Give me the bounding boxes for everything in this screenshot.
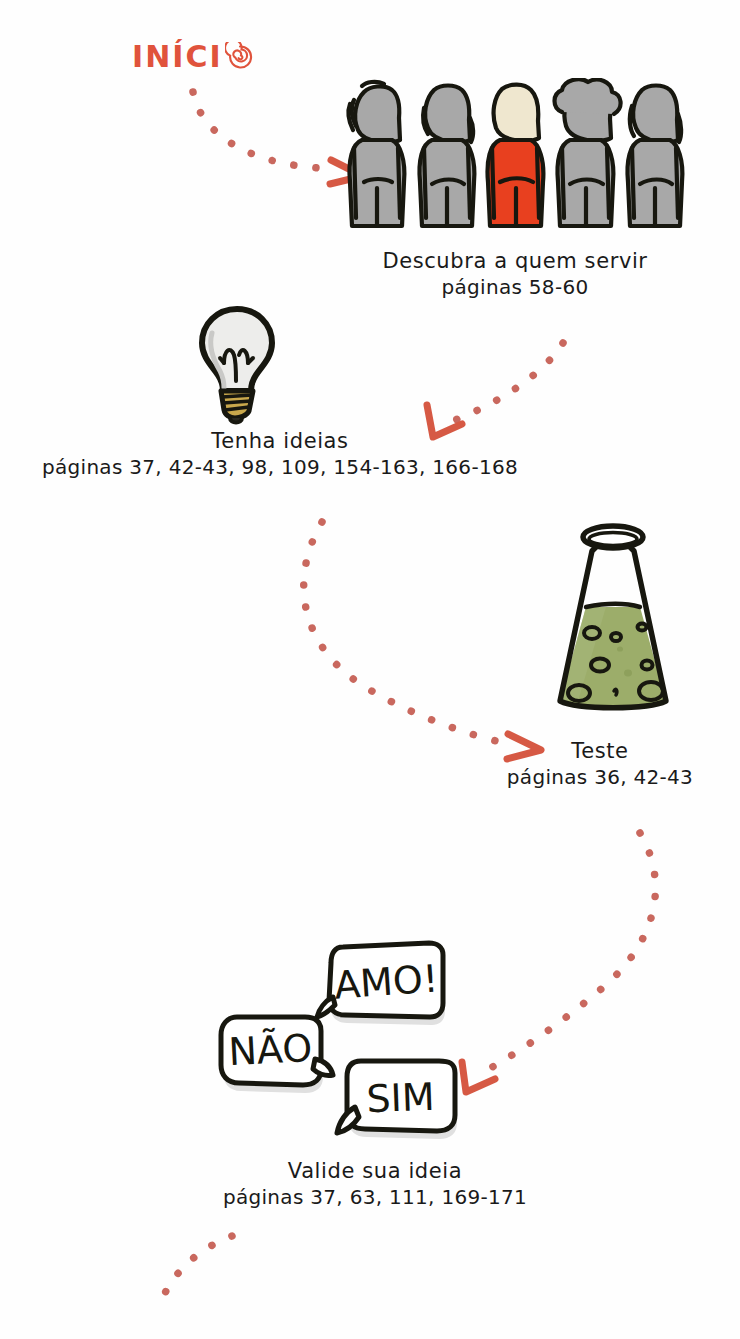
step-pages-ideias: páginas 37, 42-43, 98, 109, 154-163, 166… <box>0 454 560 480</box>
erlenmeyer-flask-icon <box>548 515 678 725</box>
five-people-icon <box>340 78 695 233</box>
spiral-o-icon <box>225 42 255 72</box>
caption-teste: Teste páginas 36, 42-43 <box>480 738 720 790</box>
person-1 <box>349 82 405 226</box>
connector-inicio-to-descubra <box>193 92 363 184</box>
person-3-highlighted <box>488 85 544 226</box>
bubble-text-nao: NÃO <box>227 1026 313 1074</box>
lightbulb-icon <box>190 303 285 428</box>
step-title-ideias: Tenha ideias <box>0 428 560 454</box>
person-5 <box>628 86 683 227</box>
step-pages-teste: páginas 36, 42-43 <box>480 764 720 790</box>
start-label-text: INÍCI <box>132 42 223 72</box>
step-pages-descubra: páginas 58-60 <box>330 274 700 300</box>
speech-bubbles-icon: AMO! NÃO SIM <box>215 935 490 1150</box>
connector-teste-to-valide <box>462 833 655 1092</box>
flowchart-page: .dotpath { fill: none; stroke: #C9685E; … <box>0 0 740 1339</box>
bubble-text-sim: SIM <box>366 1075 436 1121</box>
step-pages-valide: páginas 37, 63, 111, 169-171 <box>175 1184 575 1210</box>
step-title-descubra: Descubra a quem servir <box>330 248 700 274</box>
caption-tenha-ideias: Tenha ideias páginas 37, 42-43, 98, 109,… <box>0 428 560 480</box>
caption-descubra: Descubra a quem servir páginas 58-60 <box>330 248 700 300</box>
connector-ideias-to-teste <box>304 522 541 759</box>
start-label: INÍCI <box>132 42 255 72</box>
bubble-text-amo: AMO! <box>333 956 440 1007</box>
caption-valide: Valide sua ideia páginas 37, 63, 111, 16… <box>175 1158 575 1210</box>
connector-valide-to-next <box>158 1236 232 1310</box>
connector-descubra-to-ideias <box>427 343 563 437</box>
person-4 <box>555 79 621 226</box>
person-2 <box>420 86 475 227</box>
step-title-teste: Teste <box>480 738 720 764</box>
step-title-valide: Valide sua ideia <box>175 1158 575 1184</box>
